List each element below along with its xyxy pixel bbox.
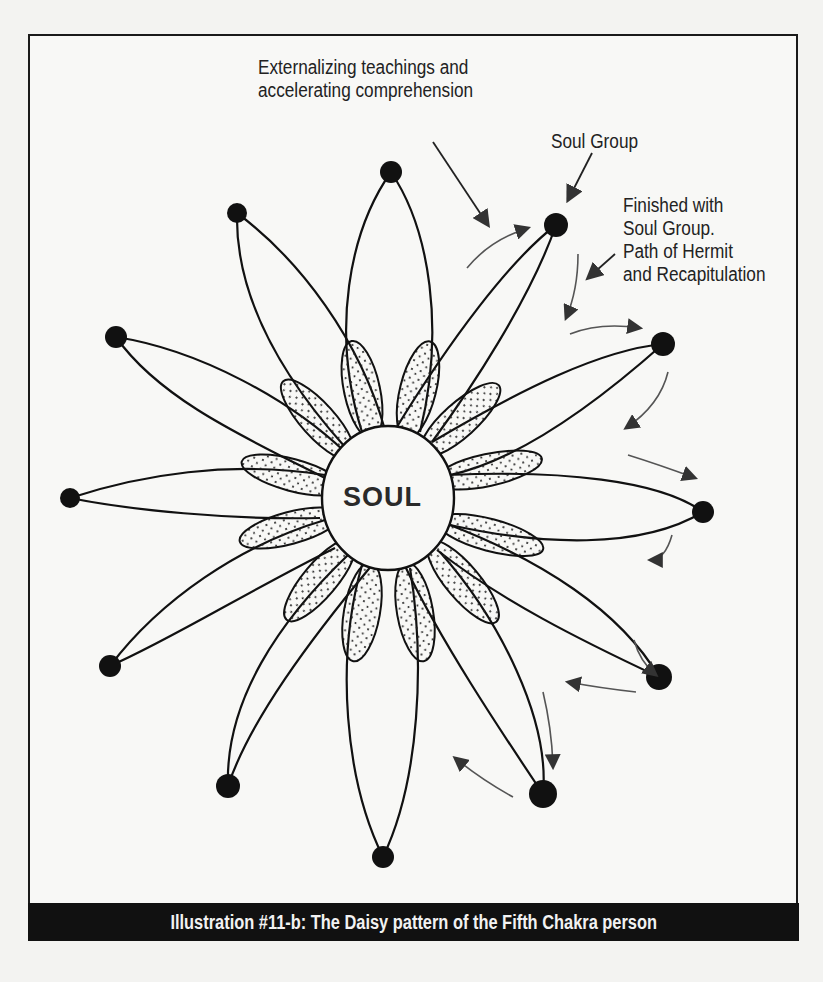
annotation-line: Externalizing teachings and bbox=[258, 56, 473, 79]
arrow-soul-group bbox=[568, 153, 592, 200]
annotation-soul-group: Soul Group bbox=[551, 130, 638, 153]
node-right bbox=[692, 501, 714, 523]
caption-bar: Illustration #11-b: The Daisy pattern of… bbox=[28, 903, 799, 941]
node-bottom bbox=[372, 846, 394, 868]
node-bottom-right bbox=[529, 780, 557, 808]
arrow-externalizing bbox=[433, 142, 488, 225]
figure-caption: Illustration #11-b: The Daisy pattern of… bbox=[170, 911, 657, 934]
node-bottom-left bbox=[216, 774, 240, 798]
annotation-line: Soul Group. bbox=[623, 217, 765, 240]
annotation-line: Path of Hermit bbox=[623, 240, 765, 263]
arrow-finished bbox=[588, 254, 615, 278]
node-right-lower bbox=[646, 664, 672, 690]
node-soul-group bbox=[544, 213, 568, 237]
flow-arrows bbox=[455, 228, 695, 797]
annotation-finished: Finished with Soul Group. Path of Hermit… bbox=[623, 194, 765, 286]
annotation-line: accelerating comprehension bbox=[258, 79, 473, 102]
node-top bbox=[380, 161, 402, 183]
soul-center-label: SOUL bbox=[343, 482, 422, 513]
annotation-line: Finished with bbox=[623, 194, 765, 217]
node-left bbox=[60, 488, 80, 508]
annotation-externalizing: Externalizing teachings and accelerating… bbox=[258, 56, 473, 102]
node-right-upper bbox=[651, 332, 675, 356]
pointer-arrows bbox=[433, 142, 615, 278]
node-left-upper bbox=[105, 326, 127, 348]
node-top-left bbox=[227, 203, 247, 223]
annotation-line: and Recapitulation bbox=[623, 263, 765, 286]
node-left-lower bbox=[99, 655, 121, 677]
